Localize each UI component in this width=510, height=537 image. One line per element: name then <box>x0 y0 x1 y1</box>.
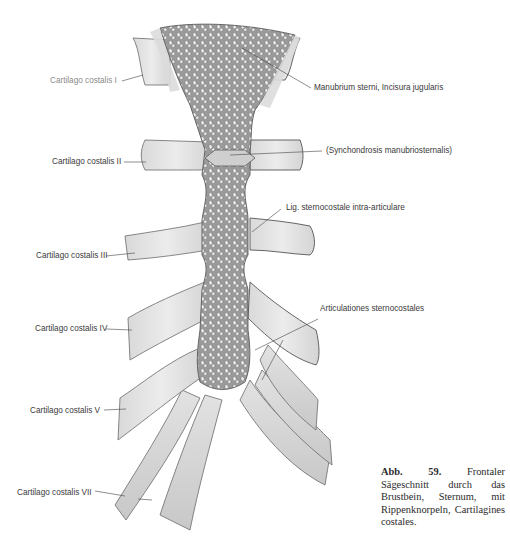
rib-iii-left <box>125 222 208 260</box>
label-cartilago-costalis-iv: Cartilago costalis IV <box>35 324 107 334</box>
rib-ii-left <box>141 140 210 170</box>
caption-number: Abb. 59. <box>381 466 441 477</box>
label-cartilago-costalis-iii: Cartilago costalis III <box>36 251 107 261</box>
rib-iii-right <box>250 218 315 255</box>
rib-iv-left <box>128 282 208 360</box>
label-cartilago-costalis-v: Cartilago costalis V <box>30 406 100 416</box>
label-articulationes-sternocostales: Articulationes sternocostales <box>320 304 424 314</box>
ribs-lower-right <box>240 345 332 485</box>
synchondrosis <box>205 150 255 166</box>
figure-caption: Abb. 59. Frontaler Sägeschnitt durch das… <box>381 466 505 529</box>
rib-ii-right <box>250 140 303 170</box>
label-cartilago-costalis-vii: Cartilago costalis VII <box>17 488 92 498</box>
label-synchondrosis: (Synchondrosis manubriosternalis) <box>326 146 452 156</box>
label-lig-sternocostale: Lig. sternocostale intra-articulare <box>286 203 405 213</box>
label-manubrium-sterni: Manubrium sterni, Incisura jugularis <box>314 83 443 93</box>
label-cartilago-costalis-ii: Cartilago costalis II <box>52 157 121 167</box>
label-cartilago-costalis-i: Cartilago costalis I <box>50 76 117 86</box>
sternum-figure: Cartilago costalis I Cartilago costalis … <box>0 0 510 537</box>
